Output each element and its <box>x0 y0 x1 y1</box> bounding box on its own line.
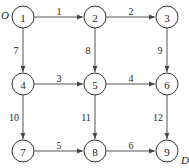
node-3: 3 <box>156 6 178 28</box>
edge-weight-label: 8 <box>86 45 91 56</box>
node-label: 5 <box>92 79 98 91</box>
node-label: 1 <box>20 12 26 24</box>
edge-2-5: 8 <box>86 28 96 72</box>
edge-1-4: 7 <box>14 28 24 72</box>
edge-3-6: 9 <box>158 28 168 72</box>
edge-weight-label: 4 <box>129 73 134 84</box>
edge-weight-label: 10 <box>9 112 19 123</box>
edge-weight-label: 3 <box>57 73 62 84</box>
network-diagram: 123456789101112 123456789 O D <box>0 0 189 168</box>
node-2: 2 <box>84 6 106 28</box>
edge-5-8: 11 <box>81 95 95 139</box>
node-label: 2 <box>92 12 98 24</box>
node-6: 6 <box>156 73 178 95</box>
origin-label: O <box>1 9 9 21</box>
node-4: 4 <box>12 73 34 95</box>
node-label: 7 <box>20 146 26 158</box>
node-1: 1 <box>12 6 34 28</box>
node-label: 4 <box>20 79 26 91</box>
edge-weight-label: 11 <box>81 112 91 123</box>
node-8: 8 <box>84 140 106 162</box>
edge-weight-label: 9 <box>158 45 163 56</box>
edge-weight-label: 5 <box>57 140 62 151</box>
edge-4-7: 10 <box>9 95 23 139</box>
node-5: 5 <box>84 73 106 95</box>
edge-2-3: 2 <box>106 6 155 18</box>
edge-7-8: 5 <box>34 140 83 152</box>
edge-6-9: 12 <box>153 95 167 139</box>
edge-8-9: 6 <box>106 140 155 152</box>
edge-5-6: 4 <box>106 73 155 85</box>
node-label: 3 <box>164 12 170 24</box>
node-7: 7 <box>12 140 34 162</box>
edge-4-5: 3 <box>34 73 83 85</box>
edge-1-2: 1 <box>34 6 83 18</box>
edge-weight-label: 6 <box>129 140 134 151</box>
node-9: 9 <box>156 140 178 162</box>
node-label: 8 <box>92 146 98 158</box>
node-label: 6 <box>164 79 170 91</box>
edge-weight-label: 1 <box>57 6 62 17</box>
edge-weight-label: 12 <box>153 112 163 123</box>
edge-weight-label: 7 <box>14 45 19 56</box>
destination-label: D <box>180 154 189 166</box>
node-label: 9 <box>164 146 170 158</box>
edge-weight-label: 2 <box>129 6 134 17</box>
